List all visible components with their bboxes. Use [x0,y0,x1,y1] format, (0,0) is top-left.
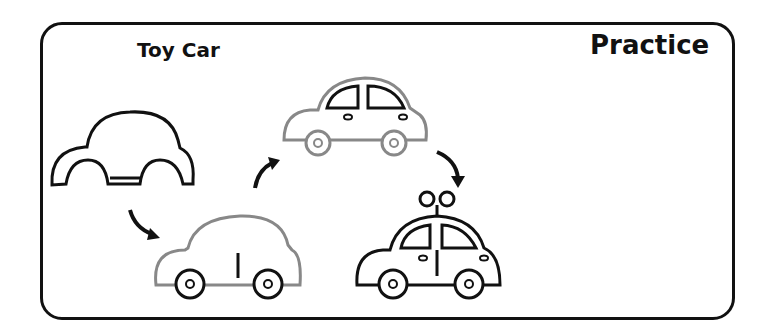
step-3-car-windows [284,78,426,155]
arrow-icon [255,163,272,188]
drawing-steps [0,0,760,333]
arrow-icon [130,210,152,234]
step-2-car-wheels [156,216,301,298]
arrow-icon [437,152,458,178]
step-1-car-outline [52,112,193,185]
step-4-toy-car [357,192,500,298]
